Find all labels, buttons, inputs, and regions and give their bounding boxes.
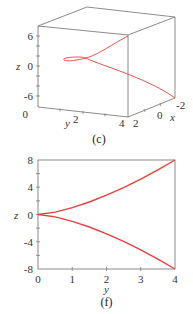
x-tick-neg2: -2: [176, 99, 185, 111]
z-tick-neg6: -6: [24, 90, 34, 102]
curve-lower-branch: [38, 215, 175, 270]
x-axis-label: x: [169, 111, 175, 123]
z-tick-neg8: -8: [24, 263, 34, 275]
y-tick-4-f: 4: [172, 273, 178, 285]
y-axis-label-f: y: [103, 283, 109, 295]
y-axis-label: y: [64, 117, 70, 129]
x-tick-2: 2: [133, 117, 139, 129]
z-tick-0-f: 0: [28, 209, 34, 221]
x-tick-0: 0: [157, 109, 163, 121]
plot-c-3d: 6 0 -6 z 0 2 4 y 2 0 -2 x (c): [15, 7, 185, 146]
plot-f-2d: 8 4 0 -4 -8 z 0 1 2 3 4 y (f): [13, 154, 178, 309]
z-axis-label-f: z: [13, 209, 19, 221]
z-tick-0: 0: [28, 60, 34, 72]
y-tick-4: 4: [119, 117, 125, 129]
y-tick-0-f: 0: [35, 273, 41, 285]
curve-upper-branch: [38, 160, 175, 215]
z-axis-label: z: [15, 60, 21, 72]
y-tick-0: 0: [23, 108, 29, 120]
y-tick-1-f: 1: [70, 273, 76, 285]
space-curve: [64, 36, 175, 98]
figure: 6 0 -6 z 0 2 4 y 2 0 -2 x (c): [0, 0, 193, 314]
z-tick-6: 6: [28, 30, 34, 42]
plot-frame: [38, 160, 175, 269]
box-frame: [38, 7, 175, 117]
z-tick-neg4: -4: [24, 236, 34, 248]
y-tick-2: 2: [73, 113, 79, 125]
z-tick-4: 4: [28, 181, 34, 193]
z-tick-8: 8: [28, 154, 34, 166]
caption-f: (f): [101, 295, 113, 309]
y-axis-ticks: [60, 109, 105, 117]
y-tick-3-f: 3: [138, 273, 144, 285]
caption-c: (c): [92, 132, 105, 146]
